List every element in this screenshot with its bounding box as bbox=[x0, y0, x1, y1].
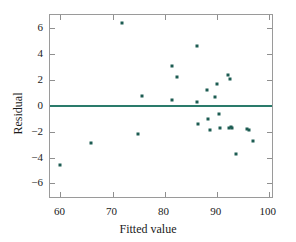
data-point bbox=[213, 95, 216, 98]
data-point bbox=[231, 127, 234, 130]
data-point bbox=[226, 74, 229, 77]
x-tick-label: 60 bbox=[54, 205, 65, 217]
y-axis-title: Residual bbox=[11, 74, 26, 154]
data-point bbox=[207, 117, 210, 120]
x-tick-label: 70 bbox=[106, 205, 117, 217]
y-tick-label: 4 bbox=[15, 47, 43, 59]
data-point bbox=[196, 123, 199, 126]
data-point bbox=[247, 128, 250, 131]
data-point bbox=[217, 113, 220, 116]
data-point bbox=[121, 22, 124, 25]
y-tick-label: −6 bbox=[15, 176, 43, 188]
x-axis-title: Fitted value bbox=[0, 222, 296, 237]
x-tick-label: 100 bbox=[260, 205, 277, 217]
data-point bbox=[208, 128, 211, 131]
data-point bbox=[215, 82, 218, 85]
data-point bbox=[170, 65, 173, 68]
y-tick-label: 6 bbox=[15, 21, 43, 33]
data-point bbox=[89, 141, 92, 144]
data-point bbox=[196, 100, 199, 103]
data-point bbox=[140, 95, 143, 98]
plot-area bbox=[49, 14, 273, 198]
data-point bbox=[137, 133, 140, 136]
data-point bbox=[206, 89, 209, 92]
x-tick-label: 80 bbox=[158, 205, 169, 217]
x-tick-label: 90 bbox=[210, 205, 221, 217]
data-point bbox=[58, 164, 61, 167]
data-points-layer bbox=[50, 15, 272, 197]
data-point bbox=[229, 78, 232, 81]
residual-plot-figure: 60708090100 6420−2−4−6 Fitted value Resi… bbox=[0, 0, 296, 242]
data-point bbox=[176, 75, 179, 78]
data-point bbox=[235, 153, 238, 156]
data-point bbox=[218, 127, 221, 130]
data-point bbox=[171, 99, 174, 102]
data-point bbox=[195, 45, 198, 48]
data-point bbox=[251, 139, 254, 142]
